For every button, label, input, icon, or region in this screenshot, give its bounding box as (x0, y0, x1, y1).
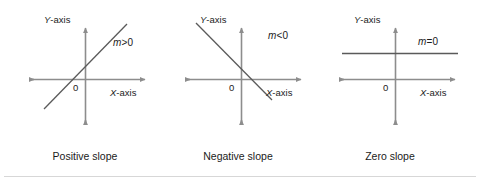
panel1-y-axis-label: Y-axis (44, 15, 70, 25)
slope-figure: Y-axis X-axis 0 m>0 Positive slope Y-axi… (0, 0, 480, 182)
panel2-caption: Negative slope (203, 150, 272, 162)
panel2-x-axis-label-suffix: -axis (272, 87, 292, 98)
panel1-y-axis-label-suffix: -axis (50, 14, 70, 25)
panel2-y-axis-label-suffix: -axis (206, 14, 226, 25)
panel3-y-axis-label-suffix: -axis (360, 14, 380, 25)
panel3-x-axis-label: X-axis (420, 88, 446, 98)
panel1-origin-label: 0 (73, 83, 78, 93)
panel3-slope-value: 0 (433, 36, 439, 47)
panel1-slope-symbol: m (113, 37, 122, 48)
panel3-x-axis-label-suffix: -axis (426, 87, 446, 98)
panel3-origin-label: 0 (383, 83, 388, 93)
panel3-slope-symbol: m (418, 36, 427, 47)
panel2-x-axis-label: X-axis (266, 88, 292, 98)
panel-zero-slope-axes (340, 28, 458, 124)
panel2-slope-symbol: m (268, 30, 277, 41)
panel2-slope-value: 0 (283, 30, 289, 41)
bottom-divider (4, 176, 476, 177)
panel1-x-axis-label: X-axis (110, 88, 136, 98)
panel1-caption: Positive slope (53, 150, 118, 162)
panel2-y-axis-label: Y-axis (200, 15, 226, 25)
panel1-slope-annotation: m>0 (113, 38, 133, 48)
panel1-x-axis-label-suffix: -axis (116, 87, 136, 98)
panel2-slope-annotation: m<0 (268, 31, 288, 41)
panel3-caption: Zero slope (365, 150, 415, 162)
panel1-slope-value: 0 (128, 37, 134, 48)
panel3-slope-annotation: m=0 (418, 37, 438, 47)
panel2-origin-label: 0 (229, 83, 234, 93)
panel3-y-axis-label: Y-axis (354, 15, 380, 25)
